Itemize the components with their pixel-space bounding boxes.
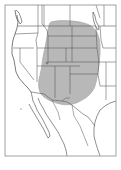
island-marker: [20, 108, 21, 109]
range-map: [0, 0, 121, 170]
map-canvas: [0, 0, 121, 170]
